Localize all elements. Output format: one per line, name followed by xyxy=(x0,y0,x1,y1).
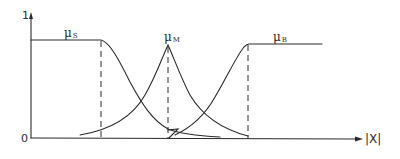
y-axis-arrow-icon xyxy=(29,12,33,19)
mu-m-subscript: M xyxy=(173,36,180,44)
mu-s-symbol: μ xyxy=(64,26,72,40)
mu-b-subscript: B xyxy=(282,36,287,44)
mu-s-label: μS xyxy=(64,27,78,40)
y-axis-label-one: 1 xyxy=(22,10,29,21)
mu-s-subscript: S xyxy=(73,32,78,40)
x-axis-arrow-icon xyxy=(355,137,363,142)
origin-label: 0 xyxy=(21,133,28,144)
mu-b-symbol: μ xyxy=(273,30,281,44)
membership-diagram: 1 0 |X| μS μM μB xyxy=(0,0,400,159)
mu-m-curve xyxy=(80,45,248,136)
mu-m-label: μM xyxy=(164,31,180,44)
diagram-canvas xyxy=(0,0,400,159)
x-axis-label: |X| xyxy=(365,133,381,145)
mu-m-symbol: μ xyxy=(164,30,172,44)
mu-b-label: μB xyxy=(273,31,287,44)
x-axis xyxy=(31,138,358,139)
mu-s-curve xyxy=(31,40,220,137)
